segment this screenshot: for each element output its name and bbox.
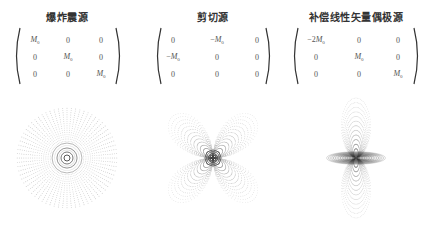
matrix-cell: 0 xyxy=(255,36,259,45)
explosion-radiation-pattern xyxy=(7,95,127,221)
matrix-cell: 0 xyxy=(99,53,103,62)
clvd-radiation-pattern xyxy=(296,95,416,221)
matrix-cell: M0 xyxy=(393,69,402,80)
matrix-cell: 0 xyxy=(66,36,70,45)
matrix-cell: 0 xyxy=(215,53,219,62)
matrix-cell: 0 xyxy=(396,36,400,45)
matrix-cell: 0 xyxy=(171,36,175,45)
matrix-cell: 0 xyxy=(396,53,400,62)
matrix-cell: M0 xyxy=(354,52,363,63)
panel-title-explosion: 爆炸震源 xyxy=(46,9,88,24)
matrix-cell: −2M0 xyxy=(307,35,325,46)
matrix-cell: M0 xyxy=(63,52,72,63)
panel-title-clvd: 补偿线性矢量偶极源 xyxy=(309,9,404,24)
right-paren-icon xyxy=(412,27,422,85)
matrix-cell: 0 xyxy=(357,70,361,79)
matrix-cell: 0 xyxy=(33,70,37,79)
left-paren-icon xyxy=(290,27,300,85)
shear-radiation-pattern xyxy=(153,95,273,221)
matrix-cell: 0 xyxy=(33,53,37,62)
matrix-cell: −M0 xyxy=(166,52,180,63)
matrix-cell: 0 xyxy=(66,70,70,79)
matrix-cell: 0 xyxy=(314,70,318,79)
right-paren-icon xyxy=(264,27,274,85)
matrix-cell: 0 xyxy=(314,53,318,62)
left-paren-icon xyxy=(12,27,22,85)
matrix-cell: 0 xyxy=(215,70,219,79)
matrix-cell: −M0 xyxy=(210,35,224,46)
matrix-cell: 0 xyxy=(255,53,259,62)
panel-title-shear: 剪切源 xyxy=(197,9,229,24)
right-paren-icon xyxy=(114,27,124,85)
matrix-cell: M0 xyxy=(96,69,105,80)
matrix-cell: 0 xyxy=(171,70,175,79)
matrix-cell: 0 xyxy=(357,36,361,45)
matrix-cell: 0 xyxy=(255,70,259,79)
matrix-cell: 0 xyxy=(99,36,103,45)
left-paren-icon xyxy=(153,27,163,85)
matrix-cell: M0 xyxy=(30,35,39,46)
